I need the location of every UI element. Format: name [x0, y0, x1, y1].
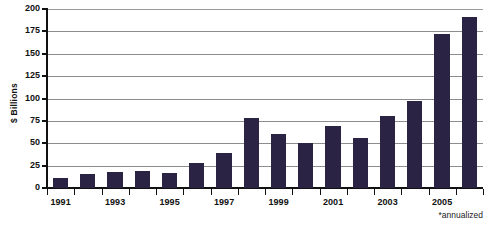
annualized-footnote: *annualized	[439, 210, 483, 220]
bar-2002	[353, 138, 368, 188]
y-tick-label-125: 125	[0, 70, 40, 80]
y-tick-label-25: 25	[0, 160, 40, 170]
x-tick-9	[292, 189, 293, 195]
bar-1992	[80, 174, 95, 188]
bar-1994	[135, 171, 150, 188]
bar-2004	[407, 101, 422, 188]
x-tick-2	[102, 189, 103, 195]
bar-2005	[434, 34, 449, 188]
x-tick-label-2003: 2003	[378, 197, 398, 207]
y-tick-label-50: 50	[0, 137, 40, 147]
y-tick-label-175: 175	[0, 25, 40, 35]
x-tick-5	[183, 189, 184, 195]
x-tick-8	[265, 189, 266, 195]
bar-1991	[53, 178, 68, 188]
x-tick-11	[347, 189, 348, 195]
x-tick-6	[211, 189, 212, 195]
bar-1998	[244, 118, 259, 188]
y-tick-label-100: 100	[0, 93, 40, 103]
bar-chart: $ Billions 0255075100125150175200 199119…	[0, 0, 489, 228]
x-tick-16	[483, 189, 484, 195]
bar-series	[47, 9, 483, 188]
bar-2006	[462, 17, 477, 188]
x-tick-label-2005: 2005	[432, 197, 452, 207]
y-tick-label-0: 0	[0, 182, 40, 192]
x-tick-label-1995: 1995	[160, 197, 180, 207]
x-tick-7	[238, 189, 239, 195]
x-tick-4	[156, 189, 157, 195]
x-tick-15	[456, 189, 457, 195]
x-tick-14	[429, 189, 430, 195]
x-tick-0	[47, 189, 48, 195]
y-tick-label-200: 200	[0, 3, 40, 13]
x-tick-3	[129, 189, 130, 195]
x-tick-1	[74, 189, 75, 195]
bar-2001	[325, 126, 340, 188]
bar-1996	[189, 163, 204, 188]
bar-1995	[162, 173, 177, 188]
bar-2003	[380, 116, 395, 188]
bar-2000	[298, 143, 313, 188]
x-tick-label-1991: 1991	[51, 197, 71, 207]
bar-1993	[107, 172, 122, 188]
x-tick-13	[401, 189, 402, 195]
y-tick-label-150: 150	[0, 48, 40, 58]
y-tick-label-75: 75	[0, 115, 40, 125]
x-tick-label-2001: 2001	[323, 197, 343, 207]
bar-1997	[216, 153, 231, 188]
bar-1999	[271, 134, 286, 188]
x-tick-label-1999: 1999	[269, 197, 289, 207]
x-tick-label-1993: 1993	[105, 197, 125, 207]
x-tick-label-1997: 1997	[214, 197, 234, 207]
x-tick-12	[374, 189, 375, 195]
x-tick-10	[320, 189, 321, 195]
